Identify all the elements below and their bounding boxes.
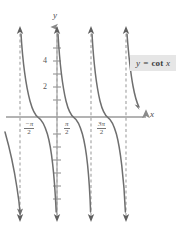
x-tick-pi-denominator: 2	[64, 128, 70, 136]
equation-lhs: y =	[136, 58, 149, 68]
y-tick-label-2: 2	[43, 83, 47, 91]
cot-branch-0	[5, 132, 20, 212]
equation-function-name: cot	[151, 58, 163, 68]
x-tick-3pi-numerator: 3π	[97, 121, 106, 128]
equation-label-box: y = cot x	[130, 55, 176, 71]
equation-variable: x	[166, 58, 170, 68]
x-tick-neg-pi-denominator: 2	[24, 128, 34, 136]
x-tick-label-three-pi-over-2: 3π 2	[97, 121, 106, 136]
x-tick-label-neg-pi-over-2: −π 2	[24, 121, 34, 136]
y-axis-label: y	[53, 11, 57, 20]
graph-canvas	[0, 0, 189, 232]
x-tick-pi-numerator: π	[64, 121, 70, 128]
x-tick-neg-pi-numerator: −π	[24, 121, 34, 128]
cotangent-graph-figure: y x 4 2 −π 2 π 2 3π 2 y = cot x	[0, 0, 189, 232]
x-axis-label: x	[150, 110, 154, 119]
y-tick-label-4: 4	[43, 57, 47, 65]
asymptotes	[20, 30, 126, 216]
x-tick-3pi-denominator: 2	[97, 128, 106, 136]
x-tick-label-pi-over-2: π 2	[64, 121, 70, 136]
cot-branch-2	[58, 34, 91, 212]
